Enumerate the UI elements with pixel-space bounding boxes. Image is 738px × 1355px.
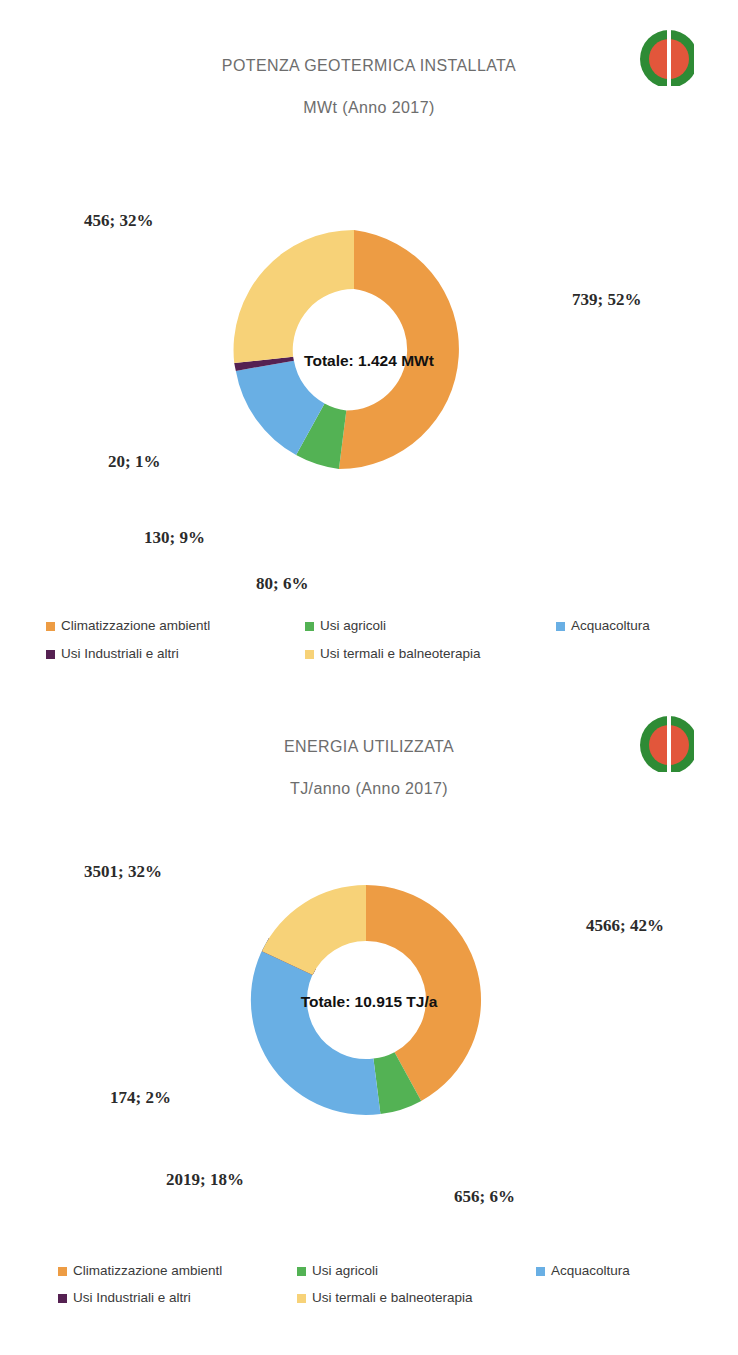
data-label-climatizzazione: 739; 52% (572, 290, 641, 310)
legend-item-usi-termali[interactable]: Usi termali e balneoterapia (297, 1290, 473, 1306)
data-label-climatizzazione: 4566; 42% (586, 916, 664, 936)
page-root: POTENZA GEOTERMICA INSTALLATA MWt (Anno … (0, 0, 738, 1355)
legend-swatch-icon (556, 622, 565, 631)
legend-item-usi-termali[interactable]: Usi termali e balneoterapia (305, 646, 481, 662)
legend-item-usi-agricoli[interactable]: Usi agricoli (297, 1263, 378, 1279)
legend-label: Climatizzazione ambientl (61, 618, 210, 634)
donut-center-total-potenza: Totale: 1.424 MWt (0, 352, 738, 370)
chart-title-line1: ENERGIA UTILIZZATA (0, 736, 738, 757)
legend-item-climatizzazione[interactable]: Climatizzazione ambientl (46, 618, 210, 634)
legend-label: Usi agricoli (312, 1263, 378, 1279)
legend-label: Usi termali e balneoterapia (312, 1290, 473, 1306)
legend-swatch-icon (58, 1294, 67, 1303)
legend-row-2: Usi Industriali e altri Usi termali e ba… (0, 1290, 738, 1314)
data-label-acquacoltura: 130; 9% (144, 528, 205, 548)
legend-label: Climatizzazione ambientl (73, 1263, 222, 1279)
legend-row-1: Climatizzazione ambientl Usi agricoli Ac… (0, 1263, 738, 1287)
legend-item-usi-industriali[interactable]: Usi Industriali e altri (58, 1290, 191, 1306)
data-label-usi-agricoli: 656; 6% (454, 1187, 515, 1207)
legend-label: Acquacoltura (551, 1263, 630, 1279)
data-label-usi-agricoli: 80; 6% (256, 574, 308, 594)
donut-area-energia: Totale: 10.915 TJ/a 4566; 42% 656; 6% 20… (0, 785, 738, 1265)
legend-swatch-icon (46, 650, 55, 659)
data-label-usi-industriali: 174; 2% (110, 1088, 171, 1108)
logo-slit (667, 712, 671, 772)
legend-swatch-icon (297, 1294, 306, 1303)
donut-segment-climatizzazione[interactable] (339, 230, 459, 469)
legend-item-usi-agricoli[interactable]: Usi agricoli (305, 618, 386, 634)
legend-item-acquacoltura[interactable]: Acquacoltura (556, 618, 650, 634)
legend-row-2: Usi Industriali e altri Usi termali e ba… (0, 646, 738, 670)
legend-label: Usi Industriali e altri (61, 646, 179, 662)
data-label-usi-termali: 3501; 32% (84, 862, 162, 882)
legend-item-climatizzazione[interactable]: Climatizzazione ambientl (58, 1263, 222, 1279)
legend-item-usi-industriali[interactable]: Usi Industriali e altri (46, 646, 179, 662)
ugi-logo-1 (640, 26, 694, 86)
ugi-logo-2 (640, 712, 694, 772)
data-label-acquacoltura: 2019; 18% (166, 1170, 244, 1190)
legend-swatch-icon (46, 622, 55, 631)
legend-potenza: Climatizzazione ambientl Usi agricoli Ac… (0, 618, 738, 670)
legend-label: Usi termali e balneoterapia (320, 646, 481, 662)
chart-block-energia: ENERGIA UTILIZZATA TJ/anno (Anno 2017) (0, 690, 738, 1355)
chart-title-line1: POTENZA GEOTERMICA INSTALLATA (0, 55, 738, 76)
data-label-usi-industriali: 20; 1% (108, 452, 160, 472)
legend-energia: Climatizzazione ambientl Usi agricoli Ac… (0, 1263, 738, 1314)
donut-area-potenza: Totale: 1.424 MWt 739; 52% 80; 6% 130; 9… (0, 110, 738, 610)
donut-center-total-energia: Totale: 10.915 TJ/a (0, 993, 738, 1011)
legend-item-acquacoltura[interactable]: Acquacoltura (536, 1263, 630, 1279)
logo-slit (667, 26, 671, 86)
data-label-usi-termali: 456; 32% (84, 211, 153, 231)
donut-chart-energia (0, 785, 738, 1265)
legend-label: Acquacoltura (571, 618, 650, 634)
legend-swatch-icon (297, 1267, 306, 1276)
legend-swatch-icon (536, 1267, 545, 1276)
legend-row-1: Climatizzazione ambientl Usi agricoli Ac… (0, 618, 738, 642)
legend-label: Usi agricoli (320, 618, 386, 634)
donut-segment-usi-termali[interactable] (234, 230, 354, 363)
chart-block-potenza: POTENZA GEOTERMICA INSTALLATA MWt (Anno … (0, 0, 738, 690)
legend-label: Usi Industriali e altri (73, 1290, 191, 1306)
legend-swatch-icon (58, 1267, 67, 1276)
legend-swatch-icon (305, 622, 314, 631)
legend-swatch-icon (305, 650, 314, 659)
